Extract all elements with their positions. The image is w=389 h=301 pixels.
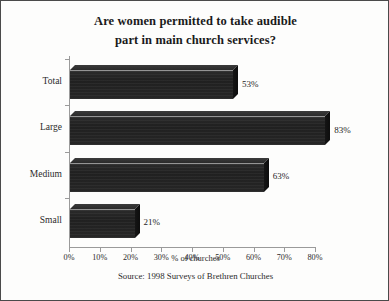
- bar-value-label: 63%: [273, 171, 290, 181]
- bar-value-label: 21%: [144, 217, 161, 227]
- x-tick: [223, 248, 224, 252]
- y-tick: [65, 105, 70, 106]
- bar-value-label: 53%: [242, 79, 259, 89]
- chart-title: Are women permitted to take audible part…: [1, 12, 389, 50]
- bar-top-highlight: [70, 209, 135, 210]
- bar-side-face: [233, 65, 238, 99]
- category-label-small: Small: [4, 215, 62, 225]
- bar-medium: [70, 158, 264, 187]
- y-tick: [65, 59, 70, 60]
- bar-side-face: [325, 111, 330, 145]
- category-label-medium: Medium: [4, 169, 62, 179]
- y-tick: [65, 198, 70, 199]
- bar-front-face: [70, 163, 264, 192]
- x-axis-title: % of churches: [1, 253, 389, 263]
- bar-top-highlight: [70, 116, 325, 117]
- source-note: Source: 1998 Surveys of Brethren Churche…: [1, 271, 389, 281]
- plot-area: TotalLargeMediumSmall 53%83%63%21% 0%10%…: [69, 59, 315, 244]
- category-label-large: Large: [4, 122, 62, 132]
- bar-side-face: [264, 158, 269, 192]
- bar-top-highlight: [70, 70, 233, 71]
- bar-front-face: [70, 209, 135, 238]
- chart-title-line-2: part in main church services?: [1, 31, 389, 50]
- chart-figure: Are women permitted to take audible part…: [0, 0, 389, 301]
- x-tick: [161, 248, 162, 252]
- bar-small: [70, 204, 135, 233]
- x-tick: [254, 248, 255, 252]
- chart-title-line-1: Are women permitted to take audible: [1, 12, 389, 31]
- y-tick: [65, 152, 70, 153]
- x-tick: [284, 248, 285, 252]
- x-tick: [315, 248, 316, 252]
- bar-total: [70, 65, 233, 94]
- x-tick: [69, 248, 70, 252]
- bar-front-face: [70, 116, 325, 145]
- x-tick: [100, 248, 101, 252]
- bar-front-face: [70, 70, 233, 99]
- bar-side-face: [135, 204, 140, 238]
- x-tick: [131, 248, 132, 252]
- bar-large: [70, 111, 325, 140]
- bar-top-highlight: [70, 163, 264, 164]
- bar-value-label: 83%: [334, 125, 351, 135]
- x-tick: [192, 248, 193, 252]
- category-label-total: Total: [4, 76, 62, 86]
